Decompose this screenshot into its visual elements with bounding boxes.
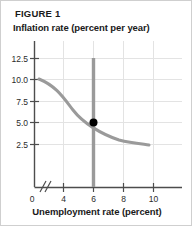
x-tick-label-4: 4 xyxy=(61,194,66,204)
x-axis-title: Unemployment rate (percent) xyxy=(1,206,192,217)
y-tick-label-10-0: 10.0 xyxy=(11,75,28,85)
x-tick-label-8: 8 xyxy=(121,194,126,204)
phillips-curve-plot: 12.5 10.0 7.5 5.0 2.5 0 4 6 8 10 xyxy=(1,1,192,226)
horizontal-gridlines xyxy=(34,59,182,145)
y-tick-label-12-5: 12.5 xyxy=(11,54,28,64)
x-axis-break-icon xyxy=(40,181,51,192)
y-tick-label-2-5: 2.5 xyxy=(16,140,28,150)
y-tick-label-5-0: 5.0 xyxy=(16,118,28,128)
equilibrium-point-marker xyxy=(90,119,98,127)
figure-card: FIGURE 1 Inflation rate (percent per yea… xyxy=(0,0,192,226)
origin-label-zero: 0 xyxy=(30,194,35,204)
x-tick-label-10: 10 xyxy=(149,194,159,204)
y-tick-label-7-5: 7.5 xyxy=(16,97,28,107)
x-tick-label-6: 6 xyxy=(91,194,96,204)
